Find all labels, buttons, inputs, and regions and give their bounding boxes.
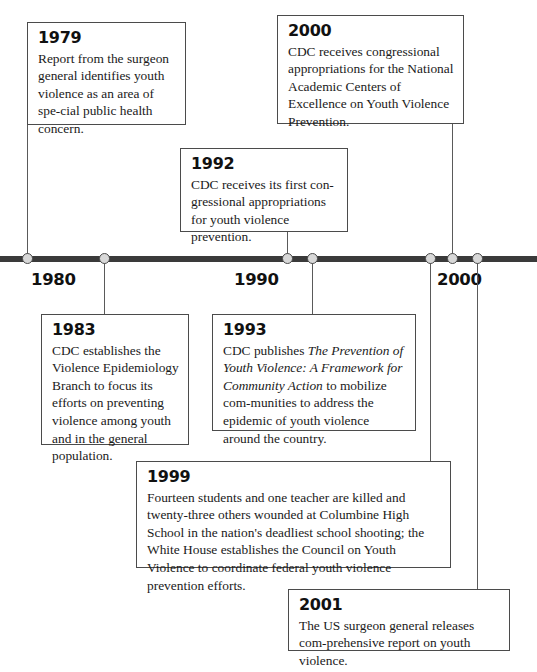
event-text-2000: CDC receives congressional appropriation… (288, 43, 454, 131)
event-box-1993: 1993 CDC publishes The Prevention of You… (212, 314, 416, 431)
event-text-2001: The US surgeon general releases com-preh… (299, 617, 500, 670)
event-box-2001: 2001 The US surgeon general releases com… (288, 589, 510, 651)
event-text-1992: CDC receives its first con-gressional ap… (191, 176, 338, 246)
tick-marker-1983 (99, 253, 110, 264)
tick-marker-1999 (425, 253, 436, 264)
timeline-figure: 1979 Report from the surgeon general ide… (0, 0, 537, 672)
event-year-1983: 1983 (52, 322, 179, 339)
event-box-2000: 2000 CDC receives congressional appropri… (277, 15, 464, 124)
tick-marker-2000 (447, 253, 458, 264)
connector-2001 (477, 262, 478, 589)
connector-2000 (452, 123, 453, 258)
axis-label-2000: 2000 (437, 270, 482, 289)
event-text-1983: CDC establishes the Violence Epidemiolog… (52, 342, 179, 465)
connector-1999 (430, 262, 431, 461)
event-text-1999: Fourteen students and one teacher are ki… (147, 489, 441, 594)
axis-label-1980: 1980 (31, 270, 76, 289)
event-box-1992: 1992 CDC receives its first con-gression… (180, 148, 348, 232)
event-text-1993: CDC publishes The Prevention of Youth Vi… (223, 342, 406, 447)
tick-marker-2001 (472, 253, 483, 264)
event-year-1979: 1979 (38, 30, 176, 47)
event-box-1999: 1999 Fourteen students and one teacher a… (136, 461, 451, 568)
event-box-1979: 1979 Report from the surgeon general ide… (27, 22, 186, 125)
publication-title-italic: The Prevention of Youth Violence: A Fram… (223, 343, 403, 393)
event-year-2000: 2000 (288, 23, 454, 40)
axis-label-1990: 1990 (234, 270, 279, 289)
connector-1993 (312, 262, 313, 314)
event-year-1992: 1992 (191, 156, 338, 173)
connector-1979 (27, 124, 28, 258)
tick-marker-1993 (307, 253, 318, 264)
event-year-1999: 1999 (147, 469, 441, 486)
event-box-1983: 1983 CDC establishes the Violence Epidem… (41, 314, 189, 445)
event-year-1993: 1993 (223, 322, 406, 339)
event-text-1979: Report from the surgeon general identifi… (38, 50, 176, 138)
connector-1983 (104, 262, 105, 314)
tick-marker-1979 (22, 253, 33, 264)
event-year-2001: 2001 (299, 597, 500, 614)
tick-marker-1992 (282, 253, 293, 264)
